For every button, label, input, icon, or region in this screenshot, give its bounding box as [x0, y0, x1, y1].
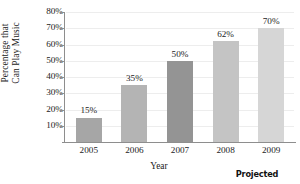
y-axis-tick-labels: 10%20%30%40%50%60%70%80%	[32, 12, 63, 142]
y-axis-tick-mark	[60, 93, 65, 94]
y-axis-title-line-2: Can Play Music	[11, 0, 22, 112]
chart-title	[60, 0, 260, 2]
bar-2005: 15%	[76, 118, 102, 142]
y-axis-title: Percentage that Can Play Music	[0, 0, 30, 112]
y-axis-tick-label: 30%	[32, 89, 63, 98]
x-axis-tick-label: 2009	[262, 146, 280, 155]
y-axis-tick-label: 10%	[32, 121, 63, 130]
bar-value-label: 50%	[172, 50, 189, 59]
plot-area: 15%35%50%62%70%	[66, 12, 294, 142]
y-axis-tick-label: 50%	[32, 56, 63, 65]
y-axis-tick-mark	[60, 12, 65, 13]
bar-2006: 35%	[121, 85, 147, 142]
bar-chart-figure: Percentage that Can Play Music 10%20%30%…	[0, 0, 300, 184]
x-axis-spine	[62, 142, 296, 143]
y-axis-tick-mark	[60, 110, 65, 111]
y-axis-tick-label: 80%	[32, 7, 63, 16]
x-axis-tick-label: 2007	[171, 146, 189, 155]
x-axis-tick-labels: 20052006200720082009	[66, 146, 294, 158]
bar-value-label: 15%	[80, 106, 97, 115]
bar-2008: 62%	[213, 41, 239, 142]
y-axis-tick-mark	[60, 77, 65, 78]
y-axis-tick-label: 40%	[32, 72, 63, 81]
x-axis-tick-label: 2005	[80, 146, 98, 155]
y-axis-tick-label: 70%	[32, 24, 63, 33]
y-axis-tick-mark	[60, 126, 65, 127]
projected-annotation: Projected	[219, 170, 295, 179]
bar-value-label: 35%	[126, 74, 143, 83]
gridline	[66, 12, 294, 13]
y-axis-tick-mark	[60, 61, 65, 62]
bar-2007: 50%	[167, 61, 193, 142]
y-axis-tick-mark	[60, 45, 65, 46]
x-axis-tick-label: 2008	[216, 146, 234, 155]
bar-value-label: 62%	[217, 30, 234, 39]
y-axis-tick-label: 60%	[32, 40, 63, 49]
y-axis-tick-mark	[60, 28, 65, 29]
y-axis-tick-label: 20%	[32, 105, 63, 114]
y-axis-title-line-1: Percentage that	[0, 0, 11, 112]
bar-2009: 70%	[258, 28, 284, 142]
x-axis-tick-label: 2006	[125, 146, 143, 155]
bar-value-label: 70%	[263, 17, 280, 26]
